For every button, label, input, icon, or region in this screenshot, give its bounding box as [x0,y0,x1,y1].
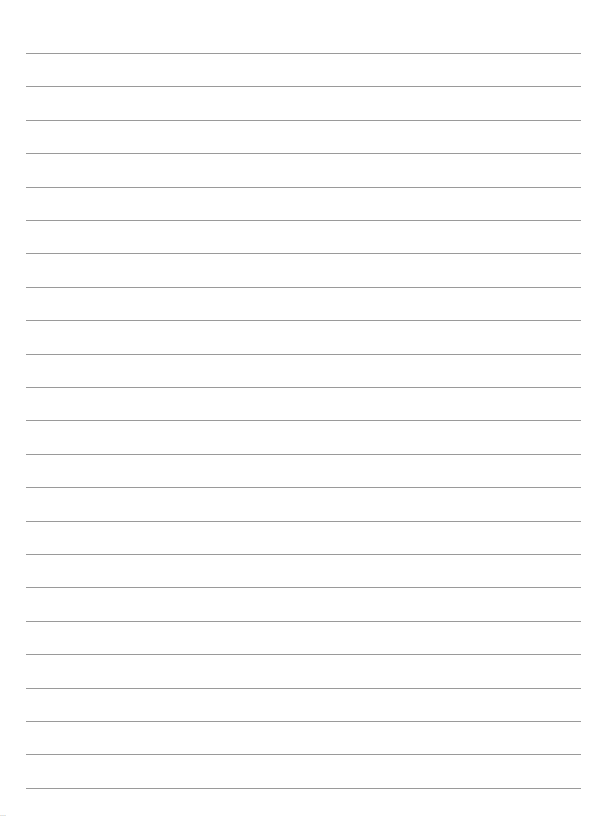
ruled-line [26,220,581,221]
ruled-line [26,521,581,522]
ruled-line [26,587,581,588]
ruled-line [26,420,581,421]
ruled-line [26,120,581,121]
ruled-line [26,721,581,722]
ruled-line [26,387,581,388]
page-footer-text: ... [0,810,6,817]
ruled-line [26,654,581,655]
ruled-line [26,287,581,288]
ruled-line [26,253,581,254]
ruled-line [26,53,581,54]
ruled-line [26,454,581,455]
ruled-line [26,621,581,622]
ruled-line [26,86,581,87]
ruled-line [26,554,581,555]
ruled-line [26,187,581,188]
ruled-line [26,487,581,488]
ruled-line [26,354,581,355]
ruled-line [26,788,581,789]
ruled-line [26,688,581,689]
ruled-line [26,153,581,154]
ruled-line [26,754,581,755]
ruled-line [26,320,581,321]
